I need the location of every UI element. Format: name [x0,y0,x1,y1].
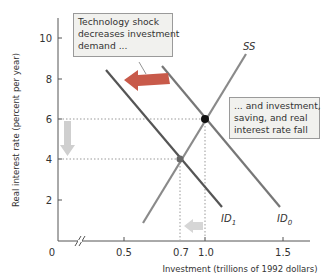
x-tick-1-5: 1.5 [275,247,291,258]
x-tick-1-0: 1.0 [198,247,214,258]
callout-leader-line [139,62,146,74]
id1-label-main: ID [221,213,232,224]
id0-label-sub: 0 [288,219,293,227]
y-tick-2: 2 [46,195,52,206]
shock-callout-line-1: Technology shock [78,16,168,28]
id0-label: ID0 [277,213,293,227]
shock-callout-line-2: decreases investment [78,28,168,40]
ss-label: SS [243,41,256,52]
x-axis-title: Investment (trillions of 1992 dollars) [162,264,317,274]
y-tick-8: 8 [46,74,52,85]
result-callout-line-3: interest rate fall [234,124,315,136]
y-axis-title: Real interest rate (percent per year) [11,53,21,207]
result-callout: ... and investment, saving, and real int… [229,97,320,139]
initial-equilibrium-point [201,115,209,123]
id1-label: ID1 [221,213,236,227]
id0-label-main: ID [277,213,288,224]
x-tick-0-5: 0.5 [116,247,132,258]
x-ticks [124,237,283,241]
investment-fall-arrow-icon [184,219,203,233]
new-equilibrium-point [177,156,184,163]
y-tick-6: 6 [46,114,52,125]
y-tick-4: 4 [46,154,52,165]
interest-rate-fall-arrow-icon [60,121,75,156]
y-tick-10: 10 [39,33,52,44]
x-tick-origin: 0 [49,247,55,258]
x-tick-0-7: 0.7 [173,247,189,258]
reference-lines [59,119,205,240]
result-callout-line-2: saving, and real [234,112,315,124]
shock-callout-line-3: demand ... [78,40,168,52]
id1-label-sub: 1 [232,219,236,227]
result-callout-line-1: ... and investment, [234,100,315,112]
demand-shift-arrow-icon [124,70,170,91]
shock-callout: Technology shock decreases investment de… [73,13,173,57]
